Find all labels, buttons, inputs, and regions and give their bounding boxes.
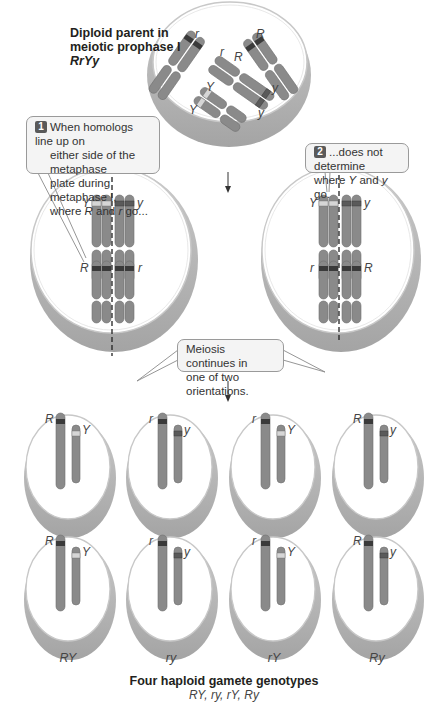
allele-label: r — [310, 261, 314, 275]
allele-label: Y — [287, 423, 295, 437]
allele-label: y — [258, 106, 264, 120]
callout-text: When homologs line up on — [35, 121, 133, 147]
gamete-genotype-label: ry — [141, 651, 201, 665]
allele-label: r — [149, 412, 153, 426]
allele-label: y — [272, 81, 278, 95]
gamete-grid — [24, 413, 424, 660]
callout-text: where Y and y go. — [314, 173, 402, 201]
gamete-genotype-label: RY — [38, 651, 98, 665]
allele-label: y — [390, 545, 396, 559]
callout-text: where R and r go... — [35, 204, 153, 218]
allele-label: y — [390, 423, 396, 437]
allele-label: Y — [82, 423, 90, 437]
parent-genotype: RrYy — [70, 54, 99, 68]
allele-label: R — [256, 27, 265, 41]
parent-cell — [147, 2, 311, 147]
callout-text: Meiosis continues in — [186, 342, 277, 370]
footer-caption: Four haploid gamete genotypes RY, ry, rY… — [0, 674, 448, 702]
gamete-genotype-label: rY — [244, 651, 304, 665]
parent-title-line2: meiotic prophase I — [70, 40, 180, 54]
callout-text: either side of the metaphase — [35, 148, 153, 176]
allele-label: r — [252, 412, 256, 426]
allele-label: R — [45, 412, 54, 426]
allele-label: Y — [189, 103, 197, 117]
allele-label: r — [252, 534, 256, 548]
allele-label: r — [138, 261, 142, 275]
allele-label: Y — [82, 196, 90, 210]
allele-label: Y — [82, 545, 90, 559]
allele-label: Y — [309, 196, 317, 210]
allele-label: R — [353, 412, 362, 426]
allele-label: y — [184, 423, 190, 437]
footer-subtitle: RY, ry, rY, Ry — [0, 688, 448, 702]
step-number-badge: 2 — [314, 146, 326, 158]
callout-text: plate during metaphase I, — [35, 176, 153, 204]
callout-step-2: 2...does not determine where Y and y go. — [305, 143, 409, 173]
callout-step-1: 1When homologs line up on either side of… — [26, 116, 160, 174]
footer-title: Four haploid gamete genotypes — [0, 674, 448, 688]
allele-label: r — [220, 45, 224, 59]
allele-label: r — [149, 534, 153, 548]
gamete-genotype-label: Ry — [347, 651, 407, 665]
allele-label: Y — [287, 545, 295, 559]
allele-label: R — [80, 261, 89, 275]
allele-label: Y — [206, 80, 214, 94]
callout-text: one of two orientations. — [186, 370, 277, 398]
allele-label: R — [234, 50, 243, 64]
allele-label: r — [195, 27, 199, 41]
parent-title: Diploid parent in meiotic prophase I RrY… — [70, 26, 180, 68]
allele-label: R — [353, 534, 362, 548]
step-number-badge: 1 — [35, 121, 47, 133]
allele-label: y — [184, 545, 190, 559]
parent-title-line1: Diploid parent in — [70, 26, 180, 40]
allele-label: R — [364, 261, 373, 275]
arrow-down-icon — [225, 172, 231, 193]
allele-label: y — [137, 196, 143, 210]
callout-meiosis-continues: Meiosis continues in one of two orientat… — [177, 339, 284, 372]
allele-label: R — [45, 534, 54, 548]
allele-label: y — [364, 196, 370, 210]
